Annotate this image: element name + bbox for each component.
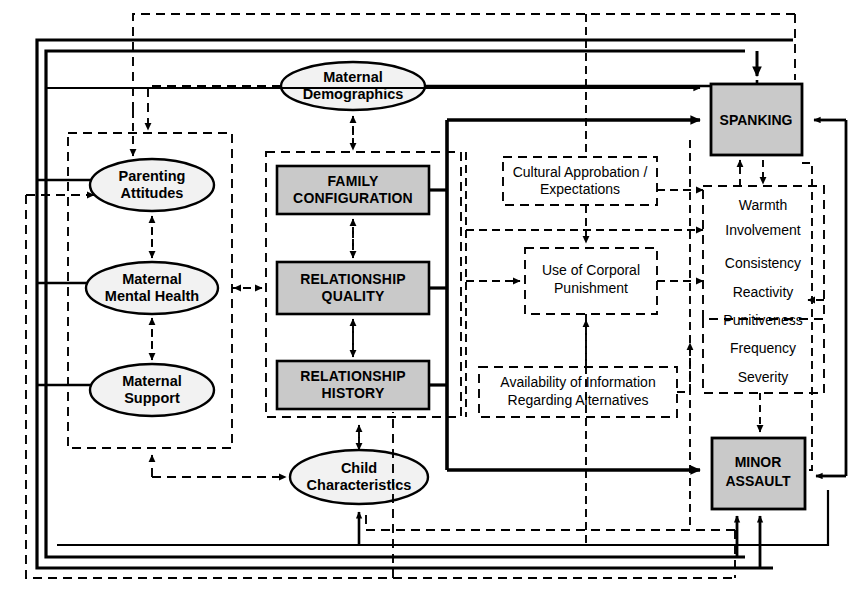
node-minor-assault[interactable]: MINOR ASSAULT [712, 438, 805, 509]
maternal-demographics-label-1: Maternal [323, 69, 383, 85]
parenting-attitudes-label-2: Attitudes [121, 185, 184, 201]
child-characteristics-label-2: Characteristics [307, 477, 412, 493]
maternal-support-label-2: Support [124, 390, 180, 406]
child-characteristics-label-1: Child [341, 460, 377, 476]
diagram-svg: Maternal Demographics Parenting Attitude… [0, 0, 862, 600]
parenting-attitudes-label-1: Parenting [119, 168, 186, 184]
node-parenting-attitudes[interactable]: Parenting Attitudes [90, 159, 214, 211]
attribute-item-warmth: Warmth [739, 197, 787, 213]
attribute-item-punitiveness: Punitiveness [723, 312, 802, 328]
use-of-corporal-punishment-label-2: Punishment [554, 280, 628, 296]
node-child-characteristics[interactable]: Child Characteristics [290, 450, 428, 504]
relationship-history-label-2: HISTORY [322, 385, 385, 401]
attribute-item-severity: Severity [738, 369, 789, 385]
diagram-canvas: Maternal Demographics Parenting Attitude… [0, 0, 862, 600]
node-family-configuration[interactable]: FAMILY CONFIGURATION [277, 166, 429, 214]
node-spanking[interactable]: SPANKING [711, 84, 802, 155]
relationship-history-label-1: RELATIONSHIP [300, 368, 406, 384]
attribute-item-frequency: Frequency [730, 340, 796, 356]
node-relationship-history[interactable]: RELATIONSHIP HISTORY [277, 361, 429, 409]
cultural-approbation-label-2: Expectations [540, 181, 620, 197]
attribute-item-involvement: Involvement [725, 222, 801, 238]
relationship-quality-label-2: QUALITY [322, 288, 385, 304]
node-availability-of-information[interactable]: Availability of Information Regarding Al… [479, 367, 677, 417]
attribute-item-reactivity: Reactivity [733, 284, 794, 300]
minor-assault-label-1: MINOR [735, 454, 782, 470]
relationship-quality-label-1: RELATIONSHIP [300, 271, 406, 287]
spanking-label: SPANKING [720, 112, 793, 128]
node-maternal-support[interactable]: Maternal Support [90, 364, 214, 416]
maternal-support-label-1: Maternal [122, 373, 182, 389]
node-relationship-quality[interactable]: RELATIONSHIP QUALITY [277, 262, 429, 314]
attribute-item-consistency: Consistency [725, 255, 801, 271]
maternal-mental-health-label-1: Maternal [122, 271, 182, 287]
family-configuration-label-2: CONFIGURATION [293, 190, 413, 206]
availability-of-information-label-2: Regarding Alternatives [508, 392, 649, 408]
family-configuration-label-1: FAMILY [327, 173, 379, 189]
node-use-of-corporal-punishment[interactable]: Use of Corporal Punishment [525, 248, 657, 314]
node-maternal-demographics[interactable]: Maternal Demographics [281, 62, 425, 110]
minor-assault-label-2: ASSAULT [725, 473, 791, 489]
cultural-approbation-label-1: Cultural Approbation / [513, 164, 648, 180]
node-maternal-mental-health[interactable]: Maternal Mental Health [86, 262, 218, 314]
availability-of-information-label-1: Availability of Information [500, 374, 655, 390]
node-cultural-approbation[interactable]: Cultural Approbation / Expectations [503, 157, 657, 205]
maternal-mental-health-label-2: Mental Health [105, 288, 199, 304]
use-of-corporal-punishment-label-1: Use of Corporal [542, 262, 640, 278]
